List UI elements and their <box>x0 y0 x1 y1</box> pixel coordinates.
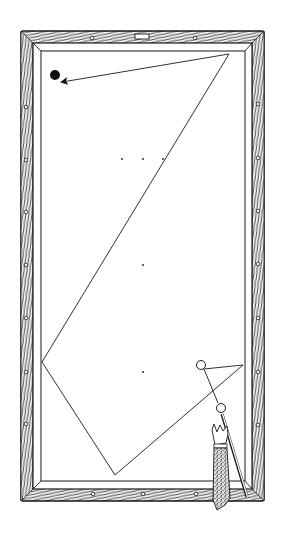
diamond-marker <box>256 316 260 320</box>
diamond-marker <box>24 316 28 320</box>
diamond-marker <box>24 105 28 109</box>
diamond-marker <box>193 36 197 40</box>
billiard-diagram <box>0 0 281 540</box>
target-ball <box>50 70 60 80</box>
table-spot <box>142 158 144 160</box>
table-spot <box>142 264 144 266</box>
table-spot <box>162 158 164 160</box>
table-bed <box>41 51 245 481</box>
diamond-marker <box>256 156 260 160</box>
nameplate <box>135 34 149 39</box>
cue-ball <box>217 404 226 413</box>
diamond-marker <box>24 263 28 267</box>
table-spot <box>121 158 123 160</box>
diamond-marker <box>256 423 260 427</box>
diamond-marker <box>141 492 145 496</box>
diamond-marker <box>90 36 94 40</box>
hand <box>212 424 228 445</box>
diamond-marker <box>24 422 28 426</box>
diamond-marker <box>24 370 28 374</box>
sleeve-cuff <box>214 444 227 448</box>
diamond-marker <box>91 492 95 496</box>
diamond-marker <box>256 102 260 106</box>
diamond-marker <box>256 370 260 374</box>
diamond-marker <box>194 492 198 496</box>
diamond-marker <box>24 210 28 214</box>
table-illustration <box>0 0 281 540</box>
diamond-marker <box>256 262 260 266</box>
diamond-marker <box>256 209 260 213</box>
sleeve <box>213 448 230 510</box>
bed-surface <box>41 51 245 481</box>
table-spot <box>142 371 144 373</box>
diamond-marker <box>24 158 28 162</box>
object-ball <box>197 361 206 370</box>
